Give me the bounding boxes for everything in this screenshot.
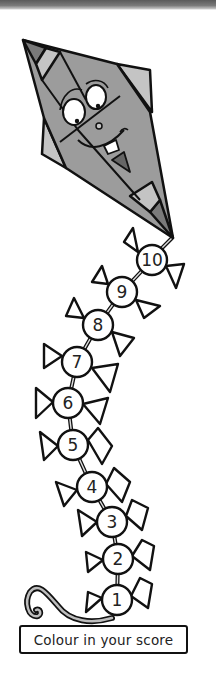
bead-number-8: 8	[93, 315, 104, 335]
bead-number-6: 6	[63, 393, 74, 413]
kite-illustration: 10 9 8 7 6 5 4 3 2 1	[0, 0, 216, 688]
bead-number-4: 4	[87, 477, 98, 497]
bead-number-5: 5	[68, 435, 79, 455]
bead-number-3: 3	[107, 512, 118, 532]
bead-number-2: 2	[113, 549, 124, 569]
bead-number-7: 7	[72, 352, 83, 372]
score-label-text: Colour in your score	[34, 632, 174, 648]
score-label-box: Colour in your score	[19, 625, 188, 654]
bead-number-1: 1	[112, 590, 123, 610]
score-beads	[36, 228, 184, 615]
bead-number-10: 10	[141, 250, 163, 270]
kite-string-curl	[27, 588, 112, 621]
bead-number-9: 9	[117, 282, 128, 302]
kite	[23, 40, 173, 238]
